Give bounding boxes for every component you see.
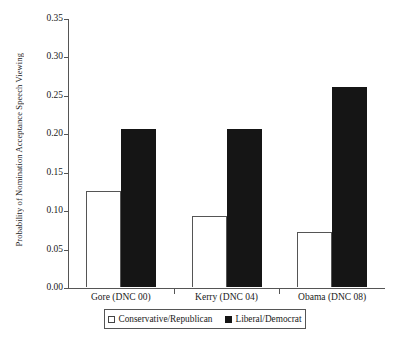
bar-open-1 [192, 216, 227, 287]
y-axis-tick-label: 0.25 [31, 91, 63, 101]
plot-area [68, 19, 385, 288]
x-axis-line [68, 288, 385, 289]
legend-label: Liberal/Democrat [235, 314, 301, 324]
y-axis-tick-mark [64, 250, 69, 251]
y-axis-line [68, 19, 69, 289]
y-axis-tick-label: 0.00 [31, 283, 63, 293]
y-axis-tick-label: 0.30 [31, 52, 63, 62]
y-axis-tick-label: 0.20 [31, 129, 63, 139]
y-axis-tick-mark [64, 134, 69, 135]
chart-legend: Conservative/RepublicanLiberal/Democrat [104, 309, 306, 329]
legend-label: Conservative/Republican [118, 314, 212, 324]
y-axis-tick-label: 0.10 [31, 206, 63, 216]
x-axis-category-label: Kerry (DNC 04) [174, 290, 280, 304]
x-axis-category-label: Obama (DNC 08) [279, 290, 385, 304]
y-axis-tick-labels: 0.350.300.250.200.150.100.050.00 [27, 0, 63, 338]
y-axis-tick-label: 0.15 [31, 168, 63, 178]
bar-filled-0 [121, 129, 156, 287]
y-axis-tick-mark [64, 57, 69, 58]
legend-swatch-filled-icon [225, 316, 232, 323]
y-axis-tick-mark [64, 19, 69, 20]
x-axis-category-label: Gore (DNC 00) [68, 290, 174, 304]
bar-chart-figure: Probability of Nomination Acceptance Spe… [0, 0, 399, 338]
y-axis-tick-label: 0.05 [31, 245, 63, 255]
x-axis-category-labels: Gore (DNC 00)Kerry (DNC 04)Obama (DNC 08… [68, 290, 385, 306]
bar-filled-2 [332, 87, 367, 287]
y-axis-tick-mark [64, 96, 69, 97]
y-axis-tick-label: 0.35 [31, 14, 63, 24]
bar-filled-1 [227, 129, 262, 287]
y-axis-tick-mark [64, 288, 69, 289]
bar-open-2 [297, 232, 332, 287]
y-axis-tick-mark [64, 173, 69, 174]
legend-swatch-open-icon [108, 316, 115, 323]
y-axis-tick-mark [64, 211, 69, 212]
legend-item-2: Liberal/Democrat [225, 314, 301, 324]
y-axis-title-text: Probability of Nomination Acceptance Spe… [14, 53, 24, 247]
legend-item-1: Conservative/Republican [108, 314, 212, 324]
bar-open-0 [86, 191, 121, 287]
